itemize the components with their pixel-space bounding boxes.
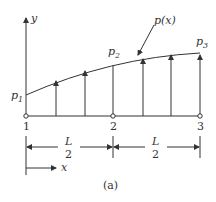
x-axis-label: x bbox=[61, 161, 68, 174]
x-axis: x bbox=[26, 161, 68, 174]
node-3-label: 3 bbox=[197, 120, 204, 133]
p3-label: p3 bbox=[196, 35, 208, 50]
svg-text:2: 2 bbox=[65, 148, 72, 161]
svg-text:L: L bbox=[64, 135, 72, 148]
y-axis-label: y bbox=[30, 12, 38, 25]
dimension-label-2: L 2 bbox=[151, 135, 159, 161]
px-label: p(x) bbox=[154, 14, 176, 27]
dimension-label-1: L 2 bbox=[64, 135, 72, 161]
svg-text:L: L bbox=[151, 135, 159, 148]
svg-text:2: 2 bbox=[152, 148, 159, 161]
y-axis: y bbox=[26, 12, 38, 116]
dimension-ticks bbox=[26, 136, 200, 175]
p2-label: p2 bbox=[108, 45, 120, 60]
p1-label: p1 bbox=[11, 89, 23, 104]
node-1-label: 1 bbox=[23, 120, 30, 133]
node-2-label: 2 bbox=[110, 120, 117, 133]
load-arrows bbox=[56, 55, 200, 116]
px-callout: p(x) bbox=[138, 14, 176, 55]
distributed-load-diagram: y p(x) p1 p2 p3 1 2 3 bbox=[0, 0, 216, 202]
figure-caption: (a) bbox=[103, 179, 118, 192]
